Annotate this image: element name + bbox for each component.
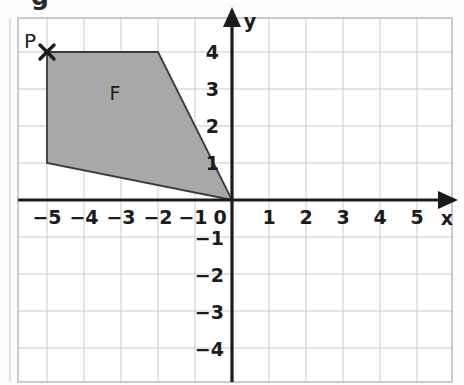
y-axis-name-label: y — [244, 10, 257, 32]
y-tick-label: −2 — [195, 264, 224, 286]
x-tick-label: −2 — [143, 206, 172, 228]
x-tick-label: −1 — [178, 206, 207, 228]
y-tick-label: −4 — [195, 338, 224, 360]
y-tick-label: 3 — [206, 78, 219, 100]
origin-label: 0 — [213, 206, 226, 228]
x-tick-label: 5 — [410, 206, 423, 228]
y-tick-label: −1 — [195, 227, 224, 249]
y-tick-label: 2 — [206, 115, 219, 137]
x-tick-label: 2 — [299, 206, 312, 228]
y-tick-label: 1 — [206, 152, 219, 174]
x-tick-label: 3 — [336, 206, 349, 228]
plot-svg: x y 0 −5 −4 −3 −2 −1 1 2 3 4 5 4 3 2 1 −… — [0, 0, 464, 385]
y-tick-label: 4 — [206, 41, 219, 63]
point-p-label: P — [24, 29, 36, 53]
coordinate-plane-figure: g — [0, 0, 464, 385]
x-axis-name-label: x — [441, 207, 453, 229]
y-tick-label: −3 — [195, 301, 224, 323]
x-tick-label: −5 — [32, 206, 61, 228]
x-tick-label: −3 — [106, 206, 135, 228]
x-tick-label: −4 — [69, 206, 98, 228]
x-tick-label: 4 — [373, 206, 386, 228]
region-label-f: F — [110, 82, 121, 104]
x-tick-label: 1 — [262, 206, 275, 228]
y-axis-arrow — [223, 7, 241, 27]
